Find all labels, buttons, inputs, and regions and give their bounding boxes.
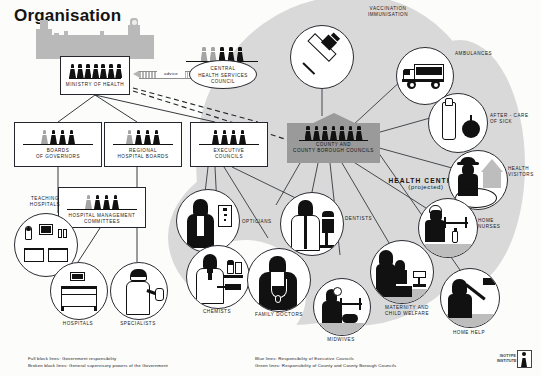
floor-shading xyxy=(419,244,477,257)
circle-vaccination-immunisation[interactable] xyxy=(290,25,354,89)
label-specialists: SPECIALISTS xyxy=(106,321,170,327)
figure-row xyxy=(299,126,368,141)
figure-row xyxy=(199,128,259,145)
circle-family-doctors[interactable] xyxy=(247,248,311,312)
ministry-of-health-label: MINISTRY OF HEALTH xyxy=(61,81,129,91)
label-health-visitors: HEALTHVISITORS xyxy=(508,166,541,179)
legend-right: Blue lines: Responsibility of Executive … xyxy=(255,355,455,369)
county-councils-label: COUNTY ANDCOUNTY BOROUGH COUNCILS xyxy=(287,142,380,155)
label-home-help: HOME HELP xyxy=(436,330,502,336)
boards-of-governors-box[interactable]: BOARDSOF GOVERNORS xyxy=(14,122,102,167)
figure-row xyxy=(113,128,173,145)
boards-of-governors-label: BOARDSOF GOVERNORS xyxy=(15,147,101,163)
circle-after-care-of-sick[interactable] xyxy=(428,93,488,153)
regional-hospital-boards-box[interactable]: REGIONALHOSPITAL BOARDS xyxy=(104,122,182,167)
label-ambulances: AMBULANCES xyxy=(455,51,517,57)
circle-home-nurses[interactable] xyxy=(418,198,478,258)
label-midwives: MIDWIVES xyxy=(309,337,373,343)
floor-shading xyxy=(314,323,370,335)
figure-row xyxy=(23,128,93,145)
ministry-of-health-box[interactable]: MINISTRY OF HEALTH xyxy=(60,56,130,95)
isotype-mark-icon xyxy=(517,350,532,368)
label-teaching-hospitals: TEACHINGHOSPITALS xyxy=(8,196,82,209)
label-home-nurses: HOMENURSES xyxy=(478,218,514,231)
executive-councils-box[interactable]: EXECUTIVECOUNCILS xyxy=(190,122,268,167)
nhs-organisation-diagram: Organisation xyxy=(0,0,541,376)
label-vaccination-immunisation: VACCINATIONIMMUNISATION xyxy=(345,6,431,19)
circle-chemists[interactable] xyxy=(186,245,250,309)
circle-dentists[interactable] xyxy=(280,192,344,256)
label-family-doctors: FAMILY DOCTORS xyxy=(243,312,315,318)
label-after-care-of-sick: AFTER - CAREOF SICK xyxy=(490,113,540,126)
legend-left: Full block lines: Government responsibil… xyxy=(28,355,233,369)
county-and-county-borough-councils-block[interactable]: COUNTY ANDCOUNTY BOROUGH COUNCILS xyxy=(287,113,380,163)
figure-row xyxy=(69,62,121,79)
advice-label: advice xyxy=(157,70,185,78)
circle-midwives[interactable] xyxy=(313,278,371,336)
isotype-credit-text: ISOTYPEINSTITUTE xyxy=(497,354,516,363)
block-body: COUNTY ANDCOUNTY BOROUGH COUNCILS xyxy=(287,123,380,163)
circle-opticians[interactable] xyxy=(176,189,240,253)
label-chemists: CHEMISTS xyxy=(186,309,248,315)
executive-councils-label: EXECUTIVECOUNCILS xyxy=(191,147,267,163)
circle-specialists[interactable] xyxy=(110,262,168,320)
label-dentists: DENTISTS xyxy=(345,216,395,222)
label-hospitals: HOSPITALS xyxy=(46,321,110,327)
label-maternity-and-child-welfare: MATERNITY ANDCHILD WELFARE xyxy=(368,305,446,318)
chsc-label: CENTRALHEALTH SERVICESCOUNCIL xyxy=(190,61,256,86)
isotype-institute-logo: ISOTYPEINSTITUTE xyxy=(497,350,537,372)
circle-hospitals[interactable] xyxy=(50,262,108,320)
central-health-services-council-oval[interactable]: CENTRALHEALTH SERVICESCOUNCIL xyxy=(189,60,257,89)
circle-home-help[interactable] xyxy=(440,268,500,328)
regional-hospital-boards-label: REGIONALHOSPITAL BOARDS xyxy=(105,147,181,163)
